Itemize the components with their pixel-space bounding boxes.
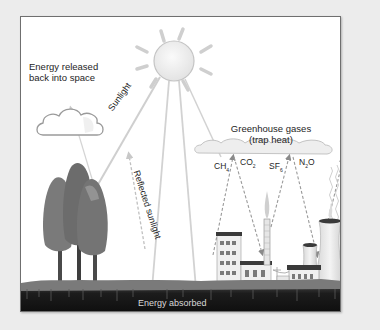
greenhouse-gases-line1: Greenhouse gases bbox=[217, 123, 325, 134]
energy-released-line2: back into space bbox=[29, 72, 98, 83]
sun-icon bbox=[137, 29, 211, 90]
factory-icon bbox=[216, 191, 272, 285]
gas-sf6: SF6 bbox=[269, 161, 283, 173]
gas-n2o: N2O bbox=[299, 157, 315, 169]
cloud-icon bbox=[37, 109, 103, 135]
smokestack-icon bbox=[264, 219, 270, 265]
energy-absorbed-label: Energy absorbed bbox=[138, 298, 207, 309]
gas-ch4: CH4 bbox=[214, 161, 229, 173]
heat-arrow-down bbox=[293, 157, 317, 255]
greenhouse-gases-label: Greenhouse gases (trap heat) bbox=[217, 123, 325, 145]
sunlight-ray bbox=[152, 81, 169, 289]
greenhouse-gases-line2: (trap heat) bbox=[217, 134, 325, 145]
energy-released-label: Energy released back into space bbox=[29, 61, 98, 83]
diagram-panel: Energy released back into space Sunlight… bbox=[20, 16, 341, 312]
sunlight-ray bbox=[179, 81, 196, 289]
energy-released-line1: Energy released bbox=[29, 61, 98, 72]
trees-icon bbox=[43, 163, 108, 287]
gas-co2: CO2 bbox=[240, 157, 256, 169]
